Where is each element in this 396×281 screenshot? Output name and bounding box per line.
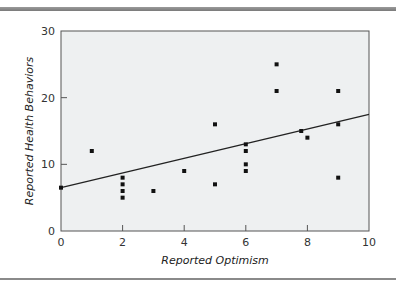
data-point: [59, 186, 63, 190]
x-tick-label: 10: [362, 236, 376, 249]
data-point: [244, 169, 248, 173]
scatter-chart: 0102030 0246810 Reported Optimism Report…: [0, 0, 396, 281]
data-point: [182, 169, 186, 173]
y-tick-label: 0: [48, 225, 55, 238]
x-tick-label: 4: [181, 236, 188, 249]
y-axis-title: Reported Health Behaviors: [23, 57, 36, 206]
data-point: [336, 89, 340, 93]
data-point: [336, 122, 340, 126]
data-point: [121, 182, 125, 186]
x-tick-label: 8: [304, 236, 311, 249]
data-point: [275, 89, 279, 93]
bottom-rule: [0, 278, 396, 280]
data-point: [213, 122, 217, 126]
data-point: [90, 149, 94, 153]
data-point: [244, 162, 248, 166]
data-point: [121, 176, 125, 180]
data-point: [121, 196, 125, 200]
x-tick-label: 0: [58, 236, 65, 249]
y-tick-label: 30: [41, 25, 55, 38]
data-point: [244, 142, 248, 146]
data-point: [121, 189, 125, 193]
data-point: [213, 182, 217, 186]
y-tick-label: 20: [41, 92, 55, 105]
plot-area: [61, 31, 369, 231]
data-point: [151, 189, 155, 193]
y-tick-label: 10: [41, 158, 55, 171]
data-point: [244, 149, 248, 153]
data-point: [305, 136, 309, 140]
x-axis-title: Reported Optimism: [161, 254, 268, 267]
x-tick-label: 2: [119, 236, 126, 249]
x-tick-label: 6: [242, 236, 249, 249]
data-point: [336, 176, 340, 180]
data-point: [275, 62, 279, 66]
data-point: [299, 129, 303, 133]
